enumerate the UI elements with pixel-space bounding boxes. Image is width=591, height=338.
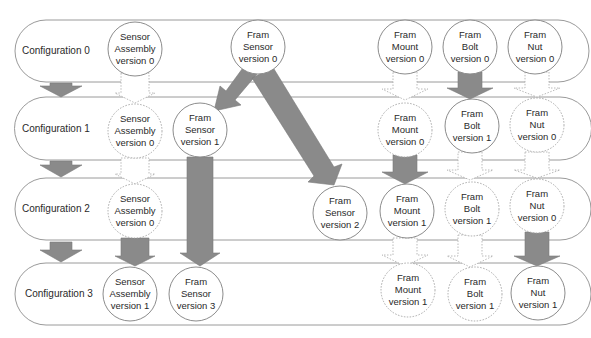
svg-text:Fram: Fram <box>459 29 481 40</box>
config-arrow-2-3 <box>40 242 82 262</box>
svg-text:version 1: version 1 <box>389 296 428 307</box>
svg-text:Bolt: Bolt <box>464 203 481 214</box>
carry-arrow-fm-2-3 <box>382 238 428 266</box>
change-arrow-sa-2-3 <box>115 238 155 266</box>
svg-text:version 0: version 0 <box>116 137 155 148</box>
node-fram-nut-c3: Fram Nut version 1 <box>511 266 565 320</box>
svg-text:Assembly: Assembly <box>114 125 155 136</box>
svg-text:Mount: Mount <box>395 284 422 295</box>
svg-text:Sensor: Sensor <box>120 31 150 42</box>
svg-text:Fram: Fram <box>527 275 549 286</box>
configuration-band-3 <box>15 263 591 325</box>
svg-text:Nut: Nut <box>530 200 545 211</box>
svg-text:Sensor: Sensor <box>115 276 145 287</box>
svg-text:version 0: version 0 <box>239 53 278 64</box>
svg-text:Fram: Fram <box>185 276 207 287</box>
svg-text:version 0: version 0 <box>116 55 155 66</box>
svg-text:Assembly: Assembly <box>114 205 155 216</box>
node-sensor-assembly-c1: Sensor Assembly version 0 <box>108 104 162 158</box>
svg-text:Fram: Fram <box>526 188 548 199</box>
svg-text:Bolt: Bolt <box>462 41 479 52</box>
svg-text:Sensor: Sensor <box>243 41 273 52</box>
node-fram-sensor-c3: Fram Sensor version 3 <box>169 267 223 321</box>
svg-text:Fram: Fram <box>247 29 269 40</box>
svg-text:version 0: version 0 <box>516 53 555 64</box>
svg-text:Assembly: Assembly <box>109 288 150 299</box>
svg-text:Fram: Fram <box>396 193 418 204</box>
svg-text:version 0: version 0 <box>451 53 490 64</box>
svg-text:version 1: version 1 <box>456 300 495 311</box>
svg-text:version 0: version 0 <box>518 131 557 142</box>
svg-text:version 1: version 1 <box>453 132 492 143</box>
svg-text:Fram: Fram <box>524 29 546 40</box>
svg-text:version 0: version 0 <box>386 53 425 64</box>
svg-text:Fram: Fram <box>394 112 416 123</box>
node-fram-mount-c1: Fram Mount version 0 <box>378 103 432 157</box>
svg-text:Fram: Fram <box>526 107 548 118</box>
svg-text:Sensor: Sensor <box>120 193 150 204</box>
svg-text:Fram: Fram <box>394 29 416 40</box>
svg-text:version 1: version 1 <box>453 215 492 226</box>
svg-text:Sensor: Sensor <box>325 207 355 218</box>
svg-text:version 1: version 1 <box>111 300 150 311</box>
svg-text:version 0: version 0 <box>386 136 425 147</box>
svg-text:Fram: Fram <box>397 272 419 283</box>
configuration-version-diagram: Configuration 0 Configuration 1 Configur… <box>0 0 591 338</box>
svg-text:version 2: version 2 <box>321 219 360 230</box>
svg-text:Nut: Nut <box>531 287 546 298</box>
svg-text:Assembly: Assembly <box>114 43 155 54</box>
node-fram-nut-c2: Fram Nut version 0 <box>510 179 564 233</box>
svg-text:Sensor: Sensor <box>181 288 211 299</box>
svg-text:Bolt: Bolt <box>464 120 481 131</box>
svg-text:Fram: Fram <box>461 191 483 202</box>
svg-text:version 1: version 1 <box>388 217 427 228</box>
svg-text:Fram: Fram <box>461 108 483 119</box>
svg-text:Mount: Mount <box>394 205 421 216</box>
node-fram-nut-c1: Fram Nut version 0 <box>510 98 564 152</box>
svg-text:Mount: Mount <box>392 124 419 135</box>
svg-text:Fram: Fram <box>464 276 486 287</box>
configuration-band-0 <box>15 20 589 82</box>
config-arrow-1-2 <box>40 161 82 177</box>
svg-text:version 1: version 1 <box>519 299 558 310</box>
node-sensor-assembly-c3: Sensor Assembly version 1 <box>103 267 157 321</box>
config-arrow-0-1 <box>40 83 82 97</box>
node-fram-sensor-c2: Fram Sensor version 2 <box>313 186 367 240</box>
configuration-label-0: Configuration 0 <box>22 45 90 56</box>
svg-text:Mount: Mount <box>392 41 419 52</box>
node-sensor-assembly-c2: Sensor Assembly version 0 <box>108 184 162 238</box>
configuration-label-1: Configuration 1 <box>22 123 90 134</box>
configuration-band-2 <box>15 178 591 240</box>
node-fram-mount-c0: Fram Mount version 0 <box>378 20 432 74</box>
svg-text:version 1: version 1 <box>181 136 220 147</box>
node-fram-sensor-c0: Fram Sensor version 0 <box>231 20 285 74</box>
svg-text:Nut: Nut <box>528 41 543 52</box>
svg-text:Fram: Fram <box>329 195 351 206</box>
svg-text:Nut: Nut <box>530 119 545 130</box>
node-fram-sensor-c1: Fram Sensor version 1 <box>173 103 227 157</box>
configuration-label-2: Configuration 2 <box>22 203 90 214</box>
node-fram-bolt-c1: Fram Bolt version 1 <box>445 99 499 153</box>
svg-text:Fram: Fram <box>189 112 211 123</box>
node-fram-mount-c3: Fram Mount version 1 <box>381 263 435 317</box>
svg-text:version 0: version 0 <box>116 217 155 228</box>
configuration-label-3: Configuration 3 <box>25 288 93 299</box>
svg-text:Sensor: Sensor <box>120 113 150 124</box>
node-fram-mount-c2: Fram Mount version 1 <box>380 184 434 238</box>
svg-text:version 3: version 3 <box>177 300 216 311</box>
svg-text:Bolt: Bolt <box>467 288 484 299</box>
node-fram-bolt-c2: Fram Bolt version 1 <box>445 182 499 236</box>
node-fram-nut-c0: Fram Nut version 0 <box>508 20 562 74</box>
svg-text:version 0: version 0 <box>518 212 557 223</box>
node-sensor-assembly-c0: Sensor Assembly version 0 <box>108 22 162 76</box>
node-fram-bolt-c0: Fram Bolt version 0 <box>443 20 497 74</box>
svg-text:Sensor: Sensor <box>185 124 215 135</box>
node-fram-bolt-c3: Fram Bolt version 1 <box>448 267 502 321</box>
